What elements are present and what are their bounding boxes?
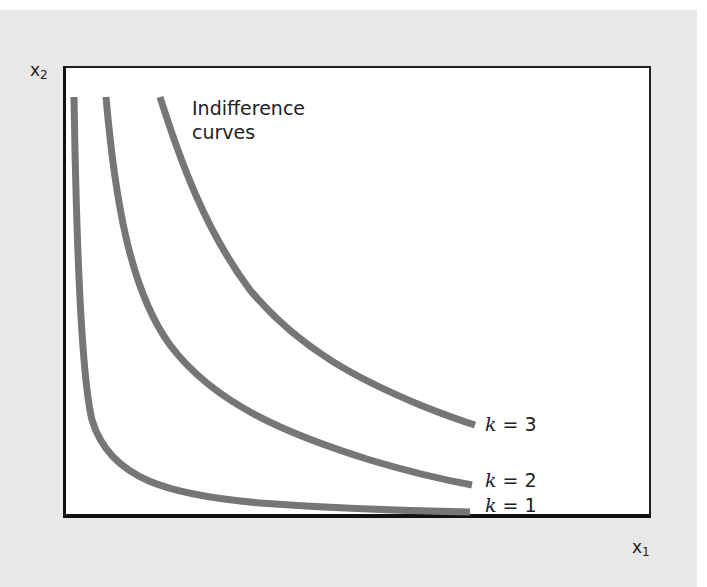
annotation-line-2: curves — [192, 120, 305, 144]
x-axis-subscript: 1 — [642, 545, 650, 559]
curve-k1 — [74, 97, 470, 512]
curve-k2 — [106, 97, 472, 485]
x-axis-label: x1 — [632, 537, 650, 559]
curve-k3 — [160, 97, 475, 425]
annotation-line-1: Indifference — [192, 96, 305, 120]
k2-value: = 2 — [503, 469, 537, 491]
k1-var: k — [485, 494, 497, 516]
label-k2: k = 2 — [485, 469, 537, 491]
k3-value: = 3 — [503, 413, 537, 435]
y-axis-var: x — [30, 60, 40, 80]
k2-var: k — [485, 469, 497, 491]
indifference-curves — [0, 0, 707, 587]
label-k1: k = 1 — [485, 494, 537, 516]
k3-var: k — [485, 413, 497, 435]
curves-annotation: Indifference curves — [192, 96, 305, 144]
x-axis-var: x — [632, 537, 642, 557]
y-axis-subscript: 2 — [40, 68, 48, 82]
y-axis-label: x2 — [30, 60, 48, 82]
k1-value: = 1 — [503, 494, 537, 516]
label-k3: k = 3 — [485, 413, 537, 435]
